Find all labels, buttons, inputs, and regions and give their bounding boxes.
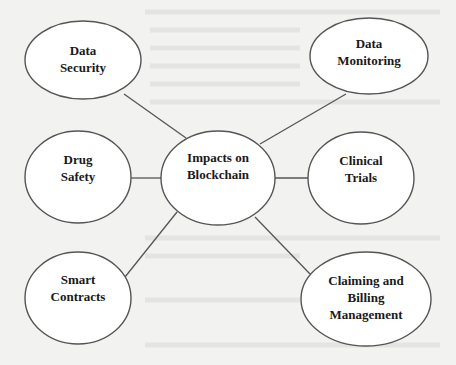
node-label-line: Management	[328, 306, 404, 323]
node-impacts-on-blockchain: Impacts on Blockchain	[187, 149, 249, 183]
node-label-line: Blockchain	[187, 166, 249, 183]
node-data-monitoring: Data Monitoring	[337, 35, 401, 69]
node-data-security: Data Security	[60, 42, 106, 76]
node-clinical-trials: Clinical Trials	[339, 152, 382, 186]
node-label-line: Smart	[51, 271, 106, 288]
node-label-line: Data	[337, 35, 401, 52]
node-label-line: Claiming and	[328, 272, 404, 289]
node-label-line: Impacts on	[187, 149, 249, 166]
node-claiming-billing-management: Claiming and Billing Management	[328, 272, 404, 323]
node-label-line: Clinical	[339, 152, 382, 169]
edge-claiming-billing	[255, 217, 310, 274]
edge-smart-contracts	[125, 212, 177, 277]
node-drug-safety: Drug Safety	[61, 151, 96, 185]
blockchain-impacts-diagram: Data Security Data Monitoring Drug Safet…	[0, 0, 456, 365]
node-label-line: Security	[60, 59, 106, 76]
node-label-line: Trials	[339, 169, 382, 186]
node-label-line: Data	[60, 42, 106, 59]
node-label-line: Drug	[61, 151, 96, 168]
node-label-line: Billing	[328, 289, 404, 306]
node-label-line: Safety	[61, 168, 96, 185]
node-label-line: Monitoring	[337, 52, 401, 69]
node-label-line: Contracts	[51, 288, 106, 305]
node-smart-contracts: Smart Contracts	[51, 271, 106, 305]
